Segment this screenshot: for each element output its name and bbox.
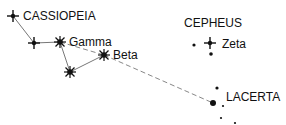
cepheus-star-small-icon — [192, 43, 195, 46]
cassiopeia-second-star-icon — [28, 37, 40, 49]
pointer-to-lacerta-dashed-line — [104, 55, 213, 103]
lacerta-star-small-icon — [220, 117, 222, 119]
lacerta-main-star-icon — [210, 100, 216, 106]
star-chart: CASSIOPEIA Gamma Beta CEPHEUS Zeta LACER… — [0, 0, 286, 125]
cassiopeia-alpha-star-icon — [7, 10, 19, 22]
lacerta-star-top-icon — [215, 86, 218, 89]
zeta-star-icon — [204, 37, 216, 49]
star-label-gamma: Gamma — [69, 35, 112, 49]
constellation-label-cepheus: CEPHEUS — [184, 16, 242, 30]
star-label-beta: Beta — [113, 48, 138, 62]
star-label-zeta: Zeta — [222, 37, 246, 51]
cassiopeia-line-4 — [70, 55, 104, 72]
lacerta-star-small-icon — [222, 105, 224, 107]
cassiopeia-lower-star-icon — [64, 66, 76, 78]
constellation-label-cassiopeia: CASSIOPEIA — [23, 9, 96, 23]
constellation-label-lacerta: LACERTA — [226, 90, 280, 104]
cepheus-star-lower-icon — [209, 52, 213, 56]
beta-star-icon — [98, 49, 110, 61]
gamma-star-icon — [54, 36, 66, 48]
lacerta-star-small-icon — [234, 122, 236, 124]
